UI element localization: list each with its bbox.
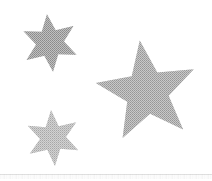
stars-scene bbox=[0, 0, 212, 181]
image-canvas bbox=[0, 0, 212, 181]
canvas-background bbox=[0, 0, 212, 181]
